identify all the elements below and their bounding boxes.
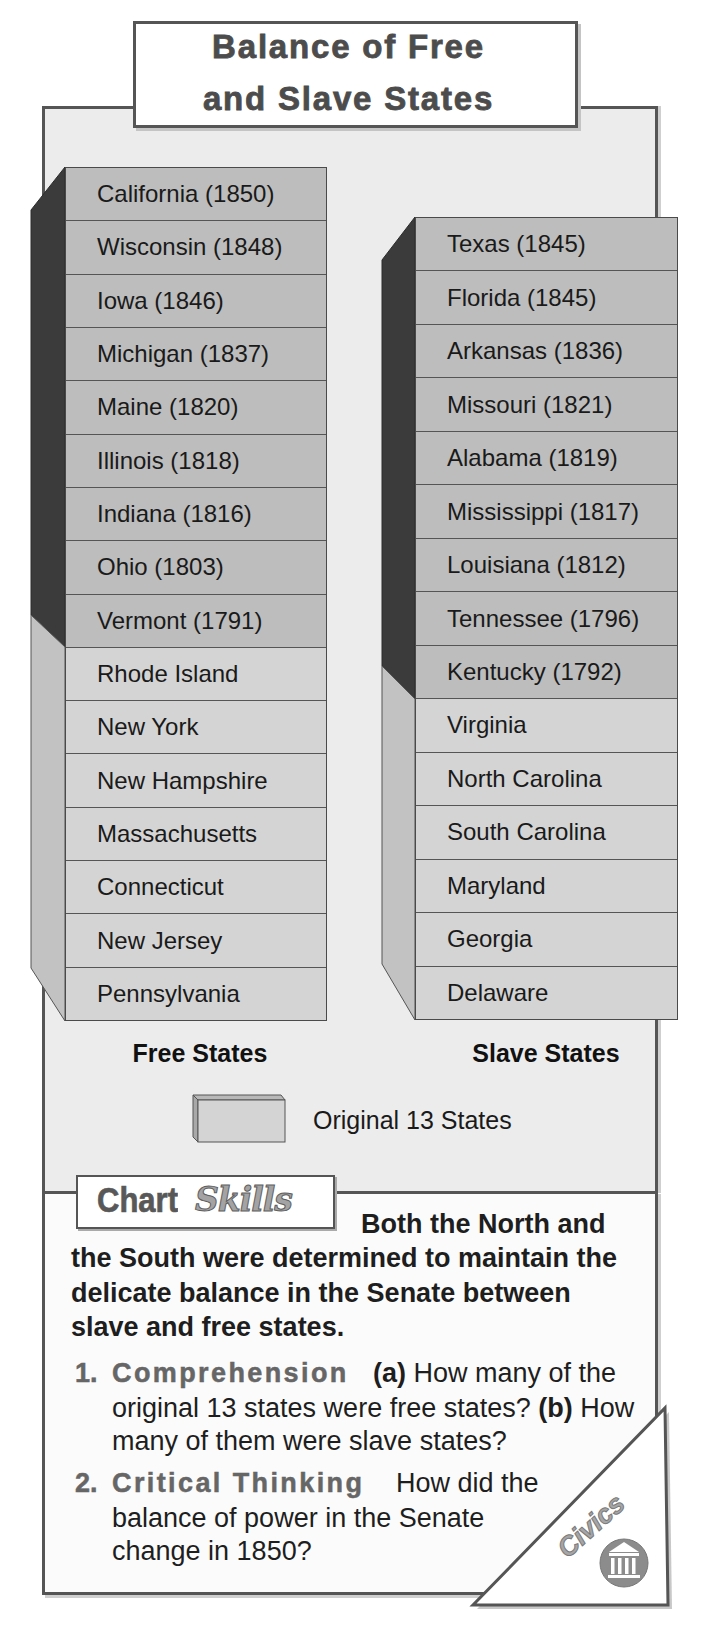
capitol-building-icon bbox=[600, 1539, 648, 1587]
civics-corner-tab bbox=[0, 0, 707, 1639]
